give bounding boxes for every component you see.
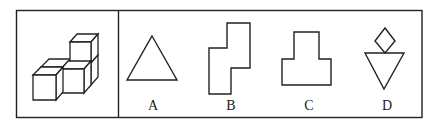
option-c-shape — [282, 32, 331, 85]
cube-stack-figure — [33, 34, 98, 100]
option-b-label: B — [221, 98, 241, 114]
option-d-shape — [365, 28, 404, 89]
option-a-label: A — [143, 98, 163, 114]
option-c-label: C — [299, 98, 319, 114]
option-a-shape — [127, 36, 177, 80]
option-b-shape — [209, 23, 250, 94]
option-d-label: D — [377, 98, 397, 114]
puzzle-figure: A B C D — [0, 0, 433, 125]
